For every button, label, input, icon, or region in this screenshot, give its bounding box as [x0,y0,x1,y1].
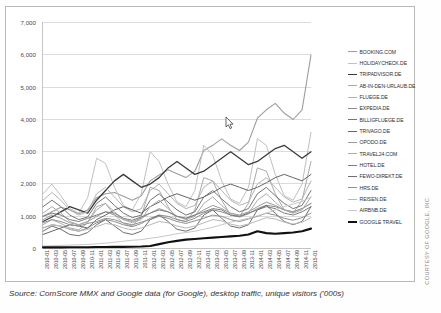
x-axis-tick-label: 2011-03 [107,250,113,269]
x-axis-tick-label: 2012-11 [196,250,202,269]
legend-item[interactable]: GOOGLE TRAVEL [348,216,418,227]
y-axis-tick-label: 0 [0,245,36,252]
legend-color-swatch [348,153,357,154]
legend-item-label: GOOGLE TRAVEL [360,219,402,225]
legend-item-label: TRIPADVISOR.DE [360,71,402,77]
y-axis-tick-label: 6,000 [0,51,36,58]
x-axis-tick-label: 2011-07 [124,250,130,269]
legend-color-swatch [348,165,357,166]
x-axis-tick-label: 2012-09 [187,250,193,269]
legend-item-label: EXPEDIA.DE [360,105,390,111]
x-axis-tick-label: 2010-09 [80,250,86,269]
legend-color-swatch [348,176,357,177]
figure-container: 7,0006,0005,0004,0003,0002,0001,0000 201… [0,0,441,313]
legend-item-label: TRAVEL24.COM [360,151,398,157]
y-axis-tick-label: 4,000 [0,115,36,122]
legend-item[interactable]: AIRBNB.DE [348,205,418,216]
x-axis-tick-label: 2015-01 [312,250,318,269]
x-axis-tick-label: 2010-03 [53,250,59,269]
legend-color-swatch [348,142,357,143]
legend-item-label: FEWO-DIREKT.DE [360,173,403,179]
legend-color-swatch [348,131,357,132]
legend-item-label: TRIVAGO.DE [360,128,391,134]
x-axis-tick-label: 2010-01 [44,250,50,269]
legend-item-label: OPODO.DE [360,139,387,145]
legend-item-label: HRS.DE [360,185,379,191]
legend-item[interactable]: TRIPADVISOR.DE [348,69,418,80]
legend-color-swatch [348,119,357,120]
y-axis: 7,0006,0005,0004,0003,0002,0001,0000 [0,16,36,248]
legend-item-label: AIRBNB.DE [360,207,387,213]
x-axis-tick-label: 2011-09 [133,250,139,269]
x-axis-tick-label: 2012-01 [151,250,157,269]
legend-item-label: HOTEL.DE [360,162,385,168]
x-axis-tick-label: 2011-05 [115,250,121,269]
x-axis-tick-label: 2014-11 [303,250,309,269]
legend-item[interactable]: HOTEL.DE [348,159,418,170]
chart-legend: BOOKING.COMHOLIDAYCHECK.DETRIPADVISOR.DE… [348,46,418,228]
y-axis-tick-label: 7,000 [0,19,36,26]
x-axis-tick-label: 2012-05 [169,250,175,269]
courtesy-credit: COURTESY OF GOOGLE, INC. [424,196,430,285]
legend-color-swatch [348,221,357,223]
y-axis-tick-label: 1,000 [0,212,36,219]
x-axis-tick-label: 2010-11 [89,250,95,269]
plot-area [42,22,311,249]
legend-item-label: REISEN.DE [360,196,387,202]
legend-item[interactable]: FLUEGE.DE [348,91,418,102]
legend-item-label: AB-IN-DEN-URLAUB.DE [360,83,416,89]
legend-item[interactable]: OPODO.DE [348,137,418,148]
x-axis-tick-label: 2013-09 [241,250,247,269]
x-axis-tick-label: 2010-05 [62,250,68,269]
legend-color-swatch [348,97,357,98]
x-axis-tick-label: 2014-03 [267,250,273,269]
legend-item[interactable]: FEWO-DIREKT.DE [348,171,418,182]
legend-color-swatch [348,63,357,64]
source-caption: Source: ComScore MMX and Google data (fo… [9,289,344,298]
x-axis-tick-label: 2010-07 [71,250,77,269]
legend-item-label: BILLIGFLUEGE.DE [360,117,404,123]
legend-item-label: FLUEGE.DE [360,94,388,100]
x-axis-tick-label: 2014-05 [276,250,282,269]
legend-color-swatch [348,85,357,86]
legend-item[interactable]: AB-IN-DEN-URLAUB.DE [348,80,418,91]
legend-color-swatch [348,187,357,188]
legend-item[interactable]: EXPEDIA.DE [348,103,418,114]
x-axis-tick-label: 2014-07 [285,250,291,269]
legend-item-label: BOOKING.COM [360,49,397,55]
x-axis-tick-label: 2012-03 [160,250,166,269]
legend-item[interactable]: TRIVAGO.DE [348,125,418,136]
legend-item[interactable]: BOOKING.COM [348,46,418,57]
x-axis-tick-label: 2013-07 [232,250,238,269]
legend-item[interactable]: TRAVEL24.COM [348,148,418,159]
x-axis-tick-label: 2014-01 [258,250,264,269]
x-axis-tick-label: 2011-11 [142,250,148,268]
legend-color-swatch [348,108,357,109]
series-line [43,132,311,213]
y-axis-tick-label: 5,000 [0,83,36,90]
legend-item-label: HOLIDAYCHECK.DE [360,60,408,66]
y-axis-tick-label: 2,000 [0,180,36,187]
y-axis-tick-label: 3,000 [0,148,36,155]
legend-item[interactable]: REISEN.DE [348,193,418,204]
x-axis-tick-label: 2013-03 [214,250,220,269]
legend-item[interactable]: HRS.DE [348,182,418,193]
legend-color-swatch [348,199,357,200]
legend-color-swatch [348,74,357,75]
x-axis-tick-label: 2012-07 [178,250,184,269]
x-axis-tick-label: 2011-01 [98,250,104,269]
legend-color-swatch [348,51,357,52]
legend-item[interactable]: BILLIGFLUEGE.DE [348,114,418,125]
x-axis-tick-label: 2013-11 [249,250,255,269]
x-axis-tick-label: 2013-01 [205,250,211,269]
x-axis: 2010-012010-032010-052010-072010-092010-… [42,250,312,284]
line-series-group [43,22,311,248]
legend-item[interactable]: HOLIDAYCHECK.DE [348,57,418,68]
x-axis-tick-label: 2013-05 [223,250,229,269]
legend-color-swatch [348,210,357,211]
x-axis-tick-label: 2014-09 [294,250,300,269]
